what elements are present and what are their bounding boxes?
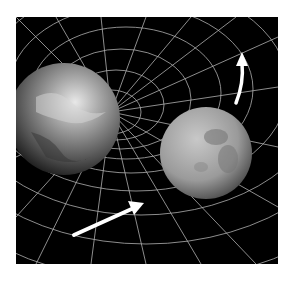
spacetime-illustration [16, 17, 278, 264]
orbit-arrow-upper [236, 52, 248, 103]
earth [16, 63, 120, 175]
moon [160, 107, 252, 199]
orbit-arrow-lower [74, 201, 144, 235]
spacetime-graphic [16, 17, 278, 264]
